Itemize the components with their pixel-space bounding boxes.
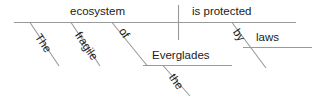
subject-word: ecosystem <box>70 6 125 18</box>
prepositional-object-everglades: Everglades <box>152 50 210 62</box>
predicate-word: is protected <box>192 6 251 18</box>
prepositional-object-laws: laws <box>256 32 279 44</box>
sentence-diagram: ecosystem is protected Everglades laws T… <box>0 0 312 101</box>
